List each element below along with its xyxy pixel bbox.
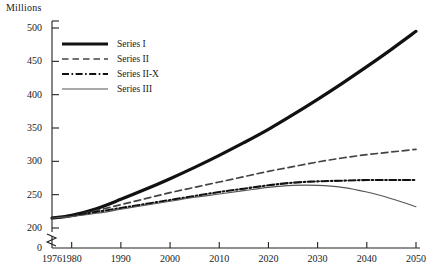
legend-label: Series I <box>117 39 146 49</box>
series-line-series-ii <box>52 149 416 218</box>
legend-label: Series III <box>117 84 152 94</box>
chart-legend: Series I Series II Series II-X Series II… <box>62 36 212 96</box>
legend-label: Series II <box>117 54 149 64</box>
series-i-line-swatch-icon <box>62 39 108 49</box>
series-line-series-ii-x <box>52 180 416 218</box>
series-ii-line-swatch-icon <box>62 54 108 64</box>
population-projection-chart: Millions 0200250300350400450500 19761980… <box>0 0 428 268</box>
legend-label: Series II-X <box>117 69 159 79</box>
y-axis-break-icon <box>47 234 56 246</box>
series-iii-line-swatch-icon <box>62 84 108 94</box>
legend-item: Series II <box>62 51 212 66</box>
legend-item: Series I <box>62 36 212 51</box>
legend-item: Series II-X <box>62 66 212 81</box>
series-ii-x-line-swatch-icon <box>62 69 108 79</box>
legend-item: Series III <box>62 81 212 96</box>
